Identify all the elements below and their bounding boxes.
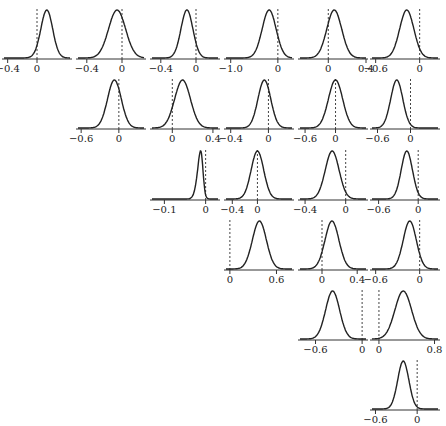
density-panel-r3c5: −0.40 bbox=[298, 146, 372, 216]
density-panel-r1c6: −0.60 bbox=[370, 5, 444, 75]
x-tick-label: −0.6 bbox=[366, 205, 390, 215]
x-tick-label: −0.4 bbox=[149, 64, 173, 74]
x-tick-label: −0.6 bbox=[364, 275, 388, 285]
x-tick-label: 0 bbox=[116, 134, 122, 144]
density-panel-r5c6: 00.8 bbox=[370, 286, 444, 356]
density-panel-r2c6: −0.60 bbox=[370, 75, 444, 145]
x-tick-label: 0 bbox=[416, 64, 422, 74]
density-panel-r1c4: −1.00 bbox=[224, 5, 298, 75]
density-panel-r1c2: −0.40 bbox=[76, 5, 150, 75]
x-tick-label: 0 bbox=[275, 64, 281, 74]
x-tick-label: 0 bbox=[34, 64, 40, 74]
density-curve bbox=[372, 291, 438, 339]
density-curve bbox=[300, 80, 366, 128]
density-curve bbox=[300, 221, 366, 269]
density-panel-r2c5: −0.60 bbox=[298, 75, 372, 145]
x-tick-label: −0.1 bbox=[152, 205, 176, 215]
x-tick-label: 0 bbox=[332, 134, 338, 144]
x-tick-label: 0 bbox=[119, 64, 125, 74]
x-tick-label: 0 bbox=[193, 64, 199, 74]
density-curve bbox=[372, 151, 438, 199]
x-tick-label: 0 bbox=[325, 64, 331, 74]
density-curve bbox=[152, 80, 218, 128]
x-tick-label: −0.4 bbox=[0, 64, 20, 74]
density-curve bbox=[372, 361, 438, 409]
density-panel-r1c3: −0.40 bbox=[150, 5, 224, 75]
density-panel-r1c1: −0.40 bbox=[2, 5, 76, 75]
x-tick-label: 0 bbox=[359, 345, 365, 355]
x-tick-label: 0 bbox=[407, 134, 413, 144]
x-tick-label: 0.6 bbox=[269, 275, 285, 285]
x-tick-label: 0 bbox=[376, 345, 382, 355]
density-panel-r3c4: −0.40 bbox=[224, 146, 298, 216]
x-tick-label: 0.8 bbox=[427, 345, 443, 355]
density-panel-r4c6: −0.60 bbox=[370, 216, 444, 286]
x-tick-label: −0.4 bbox=[219, 134, 243, 144]
x-tick-label: −1.0 bbox=[219, 64, 243, 74]
density-panel-r5c5: −0.60 bbox=[298, 286, 372, 356]
x-tick-label: 0 bbox=[414, 415, 420, 425]
density-curve bbox=[78, 80, 144, 128]
density-curve bbox=[152, 151, 218, 199]
x-tick-label: 0 bbox=[319, 275, 325, 285]
density-panel-r1c5: 00.4 bbox=[298, 5, 372, 75]
density-panel-r6c6: −0.60 bbox=[370, 356, 444, 426]
density-curve bbox=[226, 221, 292, 269]
density-curve bbox=[372, 80, 438, 128]
x-tick-label: 0 bbox=[343, 205, 349, 215]
x-tick-label: −0.6 bbox=[69, 134, 93, 144]
density-curve bbox=[300, 10, 366, 58]
x-tick-label: 0 bbox=[265, 134, 271, 144]
density-panel-r2c4: −0.40 bbox=[224, 75, 298, 145]
density-curve bbox=[78, 10, 144, 58]
x-tick-label: 0 bbox=[169, 134, 175, 144]
x-tick-label: −0.6 bbox=[363, 415, 387, 425]
density-curve bbox=[300, 151, 366, 199]
density-curve bbox=[372, 10, 438, 58]
density-panel-r3c3: −0.10 bbox=[150, 146, 224, 216]
x-tick-label: 0 bbox=[415, 205, 421, 215]
density-panel-r2c2: −0.60 bbox=[76, 75, 150, 145]
x-tick-label: −0.4 bbox=[293, 205, 317, 215]
x-tick-label: 0 bbox=[254, 205, 260, 215]
x-tick-label: 0 bbox=[416, 275, 422, 285]
x-tick-label: −0.6 bbox=[303, 345, 327, 355]
density-curve bbox=[300, 291, 366, 339]
x-tick-label: −0.6 bbox=[365, 134, 389, 144]
density-curve bbox=[226, 10, 292, 58]
x-tick-label: −0.4 bbox=[75, 64, 99, 74]
density-curve bbox=[226, 80, 292, 128]
x-tick-label: 0 bbox=[202, 205, 208, 215]
density-curve bbox=[226, 151, 292, 199]
density-curve bbox=[372, 221, 438, 269]
density-panel-r3c6: −0.60 bbox=[370, 146, 444, 216]
density-panel-r4c4: 00.6 bbox=[224, 216, 298, 286]
x-tick-label: −0.6 bbox=[293, 134, 317, 144]
density-panel-r2c3: 00.4 bbox=[150, 75, 224, 145]
x-tick-label: −0.6 bbox=[364, 64, 388, 74]
density-panel-r4c5: 00.4 bbox=[298, 216, 372, 286]
x-tick-label: 0 bbox=[227, 275, 233, 285]
x-tick-label: −0.4 bbox=[220, 205, 244, 215]
density-curve bbox=[152, 10, 218, 58]
